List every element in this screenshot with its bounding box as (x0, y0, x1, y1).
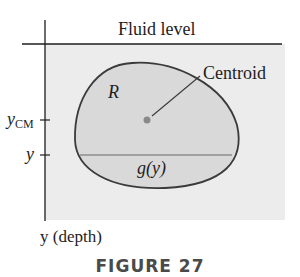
y-cm-label: yCM (7, 110, 34, 128)
region-label: R (108, 83, 119, 101)
chord-label: g(y) (137, 159, 166, 177)
y-cm-label-main: y (7, 109, 15, 129)
fluid-level-label: Fluid level (118, 20, 196, 38)
y-cm-label-sub: CM (15, 117, 34, 131)
centroid-label: Centroid (203, 64, 266, 82)
y-label: y (26, 145, 34, 163)
centroid-dot (144, 117, 151, 124)
axis-label: y (depth) (40, 228, 102, 245)
figure-caption: FIGURE 27 (0, 256, 300, 276)
